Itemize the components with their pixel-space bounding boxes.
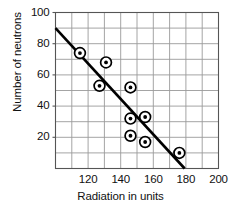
- data-point-dot: [104, 61, 108, 65]
- y-tick-label: 40: [16, 99, 50, 111]
- x-axis-label: Radiation in units: [0, 190, 241, 202]
- data-point-dot: [129, 117, 133, 121]
- y-tick-label: 80: [16, 37, 50, 49]
- data-point-dot: [129, 85, 133, 89]
- x-tick-label: 200: [199, 173, 239, 185]
- y-tick-label: 20: [16, 130, 50, 142]
- data-point-dot: [98, 84, 102, 88]
- data-point-dot: [177, 151, 181, 155]
- data-point-dot: [78, 51, 82, 55]
- data-point-dot: [143, 140, 147, 144]
- y-tick-label: 60: [16, 68, 50, 80]
- data-point-dot: [143, 115, 147, 119]
- y-tick-label: 100: [16, 6, 50, 18]
- data-point-dot: [129, 134, 133, 138]
- scatter-plot-figure: Number of neutrons Radiation in units 20…: [0, 0, 241, 213]
